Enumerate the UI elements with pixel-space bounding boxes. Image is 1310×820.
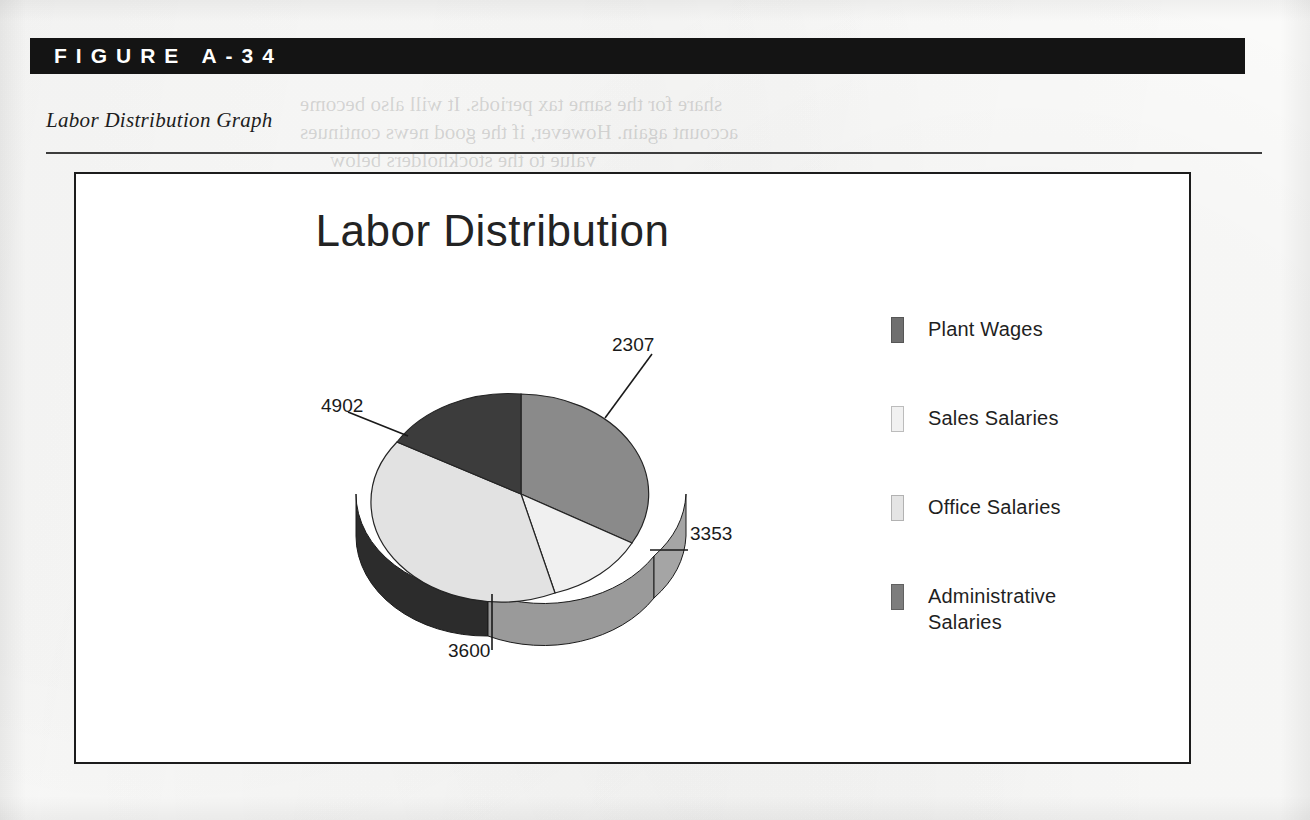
legend-label-administrative-salaries: Administrative Salaries xyxy=(928,583,1056,635)
chart-legend: Plant Wages Sales Salaries Office Salari… xyxy=(891,316,1161,697)
legend-item-office-salaries[interactable]: Office Salaries xyxy=(891,494,1161,521)
leader-line-plant-wages xyxy=(605,354,652,418)
data-label-administrative-salaries: 4902 xyxy=(321,395,363,417)
legend-label-plant-wages: Plant Wages xyxy=(928,316,1043,342)
data-label-office-salaries: 3600 xyxy=(448,640,490,662)
data-label-plant-wages: 2307 xyxy=(612,334,654,356)
legend-swatch-sales-salaries xyxy=(891,406,904,432)
legend-swatch-plant-wages xyxy=(891,317,904,343)
legend-item-sales-salaries[interactable]: Sales Salaries xyxy=(891,405,1161,432)
figure-number-label: FIGURE A-34 xyxy=(54,44,283,68)
plot-area: 2307 3353 3600 4902 Plant Wages Sales Sa… xyxy=(76,174,1193,766)
legend-item-administrative-salaries[interactable]: Administrative Salaries xyxy=(891,583,1161,635)
data-label-sales-salaries: 3353 xyxy=(690,523,732,545)
pie-chart xyxy=(256,294,816,694)
figure-caption: Labor Distribution Graph xyxy=(46,108,273,133)
bleed-through-line-1: share for the same tax periods. It will … xyxy=(300,92,722,117)
caption-divider xyxy=(46,152,1262,154)
legend-swatch-administrative-salaries xyxy=(891,584,904,610)
pie-side-sales-salaries xyxy=(654,494,686,598)
legend-label-office-salaries: Office Salaries xyxy=(928,494,1061,520)
bleed-through-line-2: account again. However, if the good news… xyxy=(300,120,738,145)
scanned-page: share for the same tax periods. It will … xyxy=(0,0,1310,820)
legend-item-plant-wages[interactable]: Plant Wages xyxy=(891,316,1161,343)
legend-swatch-office-salaries xyxy=(891,495,904,521)
chart-frame: Labor Distribution xyxy=(74,172,1191,764)
pie-3d-top xyxy=(371,394,649,603)
legend-label-sales-salaries: Sales Salaries xyxy=(928,405,1059,431)
